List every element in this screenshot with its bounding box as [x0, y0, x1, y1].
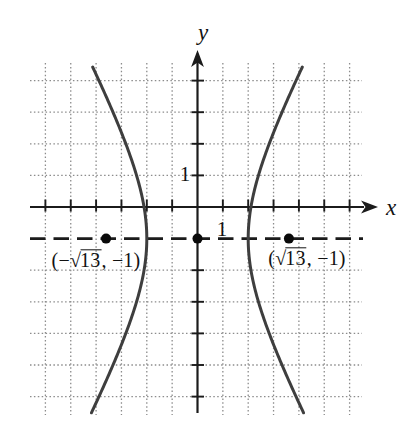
right-focus-label: (√13, −1): [268, 247, 345, 268]
x-axis: [30, 200, 378, 214]
marked-point-dot: [101, 234, 111, 244]
left-focus-label-open: (−: [52, 249, 70, 271]
left-focus-label: (−√13, −1): [52, 249, 141, 270]
hyperbola-plot: [0, 0, 415, 433]
left-focus-radicand: 13: [80, 249, 101, 270]
y-axis-label: y: [198, 21, 208, 44]
y-axis: [191, 50, 204, 413]
x-axis-label: x: [386, 196, 396, 219]
y-tick-label-1: 1: [180, 164, 191, 185]
hyperbola-figure: y x 1 1 (−√13, −1) (√13, −1): [0, 0, 415, 433]
right-focus-radicand: 13: [285, 247, 306, 268]
marked-point-dot: [193, 234, 203, 244]
right-focus-label-close: , −1): [307, 247, 346, 269]
right-focus-label-open: (: [268, 247, 275, 269]
left-focus-label-close: , −1): [101, 249, 140, 271]
x-tick-label-1: 1: [217, 219, 228, 240]
marked-point-dot: [284, 234, 294, 244]
